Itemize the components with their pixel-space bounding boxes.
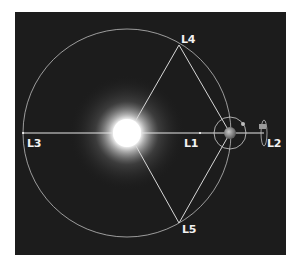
moon <box>241 122 245 126</box>
label-l5: L5 <box>182 224 196 235</box>
label-l1: L1 <box>184 138 198 149</box>
l1-marker <box>199 132 201 134</box>
label-l2: L2 <box>267 138 281 149</box>
l3-marker <box>22 132 24 134</box>
l2-spacecraft <box>259 124 266 129</box>
sun <box>113 119 141 147</box>
label-l4: L4 <box>181 34 195 45</box>
label-l3: L3 <box>27 138 41 149</box>
lagrange-diagram <box>0 0 302 268</box>
earth <box>224 127 236 139</box>
